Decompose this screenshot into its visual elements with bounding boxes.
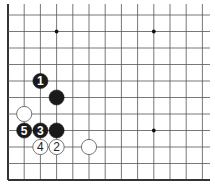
move-number-label: 1 <box>37 74 44 88</box>
go-board: 15342 <box>0 0 215 189</box>
move-number-label: 2 <box>53 140 60 154</box>
white-stone-2: 2 <box>49 139 64 154</box>
black-stone-3: 3 <box>33 123 48 138</box>
move-number-label: 3 <box>37 124 44 138</box>
white-stone <box>17 106 32 121</box>
move-number-label: 5 <box>21 124 28 138</box>
white-stone-4: 4 <box>33 139 48 154</box>
black-stone-5: 5 <box>17 123 32 138</box>
star-point-icon <box>55 30 59 34</box>
white-stone <box>81 139 96 154</box>
star-point-icon <box>152 30 156 34</box>
black-stone <box>49 123 64 138</box>
black-stone-1: 1 <box>33 73 48 88</box>
white-stone-icon <box>17 106 32 121</box>
move-number-label: 4 <box>37 140 44 154</box>
star-point-icon <box>152 129 156 133</box>
black-stone-icon <box>49 90 64 105</box>
white-stone-icon <box>81 139 96 154</box>
black-stone-icon <box>49 123 64 138</box>
black-stone <box>49 90 64 105</box>
